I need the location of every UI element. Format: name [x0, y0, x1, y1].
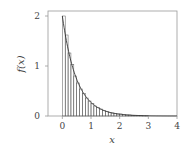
- y-tick-label: 2: [34, 11, 40, 21]
- y-axis-ticks: 012: [34, 11, 48, 121]
- histogram-bar: [77, 83, 80, 116]
- histogram-bar: [74, 76, 77, 116]
- x-tick-label: 3: [145, 121, 151, 131]
- histogram-chart: 01234 012 x f(x): [0, 0, 190, 155]
- histogram-bars: [62, 16, 148, 116]
- x-axis-label: x: [109, 134, 115, 145]
- x-tick-label: 2: [117, 121, 123, 131]
- histogram-bar: [91, 104, 94, 117]
- histogram-bar: [88, 101, 91, 116]
- histogram-bar: [108, 113, 111, 117]
- y-axis-label: f(x): [15, 55, 26, 73]
- histogram-bar: [82, 94, 85, 117]
- x-tick-label: 4: [174, 121, 180, 131]
- histogram-bar: [85, 98, 88, 116]
- histogram-bar: [71, 65, 74, 117]
- x-tick-label: 0: [59, 121, 65, 131]
- y-tick-label: 1: [34, 61, 40, 71]
- histogram-bar: [80, 89, 83, 116]
- x-tick-label: 1: [88, 121, 94, 131]
- histogram-bar: [94, 106, 97, 116]
- plot-frame: [48, 11, 177, 116]
- x-axis-ticks: 01234: [59, 116, 180, 131]
- y-tick-label: 0: [34, 111, 40, 121]
- histogram-bar: [68, 53, 71, 116]
